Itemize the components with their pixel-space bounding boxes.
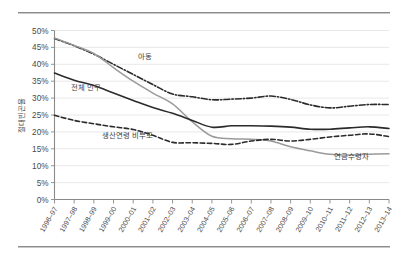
series-annotation: 연금수령자: [334, 152, 369, 161]
series-line: [55, 39, 390, 108]
x-axis-tick-labels-group: 1996–971997–981998–991999–002000–012001–…: [38, 205, 394, 234]
y-axis-tick-label: 10%: [32, 162, 48, 171]
x-axis-tick-label: 2011–12: [333, 205, 355, 233]
y-axis-tick-label: 50%: [32, 27, 48, 36]
chart-figure: 0%5%10%15%20%25%30%35%40%45%50% 1996–971…: [0, 0, 405, 258]
y-axis-tick-label: 0%: [37, 196, 49, 205]
y-axis-tick-labels-group: 0%5%10%15%20%25%30%35%40%45%50%: [32, 27, 48, 205]
y-axis-title-group: 절대빈곤율: [17, 98, 26, 133]
x-axis-tick-label: 2013–14: [372, 205, 394, 234]
y-axis-tick-label: 35%: [32, 77, 48, 86]
series-annotation: 생산연령 비부모: [102, 131, 153, 140]
y-axis-tick-label: 25%: [32, 111, 48, 120]
y-axis-tick-label: 45%: [32, 43, 48, 52]
y-axis-tick-label: 20%: [32, 128, 48, 137]
y-axis-tick-label: 30%: [32, 94, 48, 103]
series-annotation: 아동: [138, 52, 152, 61]
x-axis-tick-label: 2010–11: [313, 205, 335, 233]
x-axis-ticks-group: [55, 200, 390, 204]
x-axis-tick-label: 2009–10: [293, 205, 315, 234]
poverty-rate-line-chart: 0%5%10%15%20%25%30%35%40%45%50% 1996–971…: [0, 0, 405, 258]
series-annotation: 전체 인구: [71, 83, 101, 92]
y-axis-tick-label: 5%: [37, 179, 49, 188]
y-axis-tick-label: 40%: [32, 60, 48, 69]
y-axis-title: 절대빈곤율: [17, 98, 26, 133]
y-axis-tick-label: 15%: [32, 145, 48, 154]
